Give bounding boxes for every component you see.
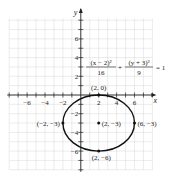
equation-term2-numerator: (y + 3)²	[128, 59, 149, 67]
equation-plus: +	[118, 64, 122, 72]
x-tick-label: −6	[23, 99, 31, 107]
x-tick-label: −2	[59, 99, 67, 107]
point-label: (2, −6)	[92, 154, 112, 162]
ellipse-graph: −6−4−2246642−2−4−6 (2, 0)(2, −3)(−2, −3)…	[0, 0, 172, 175]
point-marker	[61, 122, 64, 125]
point-marker	[97, 94, 100, 97]
y-tick-label: 4	[75, 54, 79, 62]
tick-labels: −6−4−2246642−2−4−6	[23, 35, 136, 155]
point-marker	[133, 122, 136, 125]
x-tick-label: 6	[133, 99, 137, 107]
y-tick-label: −2	[71, 110, 79, 118]
point-label: (2, −3)	[102, 120, 122, 128]
point-marker	[97, 150, 100, 153]
point-label: (−2, −3)	[37, 120, 61, 128]
y-tick-label: −4	[71, 129, 79, 137]
x-axis-label: x	[152, 96, 157, 105]
point-label: (2, 0)	[91, 84, 107, 92]
equation-rhs: = 1	[156, 64, 166, 72]
equation-term1-denominator: 16	[98, 69, 106, 77]
ellipse-equation: (x − 2)² 16 + (y + 3)² 9 = 1	[86, 59, 166, 77]
y-tick-label: −6	[71, 148, 79, 156]
point-label: (6, −3)	[138, 120, 158, 128]
y-axis-label: y	[73, 8, 78, 17]
equation-term2-denominator: 9	[137, 69, 141, 77]
x-tick-label: 2	[97, 99, 101, 107]
y-tick-label: 6	[75, 35, 79, 43]
y-tick-label: 2	[75, 73, 79, 81]
equation-term1-numerator: (x − 2)²	[90, 59, 111, 67]
y-axis-arrow-icon	[79, 8, 83, 13]
point-marker	[97, 122, 100, 125]
x-tick-label: −4	[41, 99, 49, 107]
